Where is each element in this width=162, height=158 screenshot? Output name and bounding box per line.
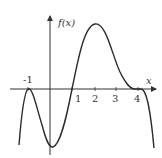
function-curve xyxy=(19,24,154,148)
tick-label-4: 4 xyxy=(134,93,140,104)
tick-label-3: 3 xyxy=(112,93,118,104)
function-graph: -1 1 2 3 4 x f(x) xyxy=(0,0,162,158)
tick-label-2: 2 xyxy=(92,93,98,104)
tick-label-neg1: -1 xyxy=(23,74,33,85)
y-axis-label: f(x) xyxy=(57,17,75,28)
tick-label-1: 1 xyxy=(75,93,81,104)
x-axis-label: x xyxy=(146,75,152,86)
